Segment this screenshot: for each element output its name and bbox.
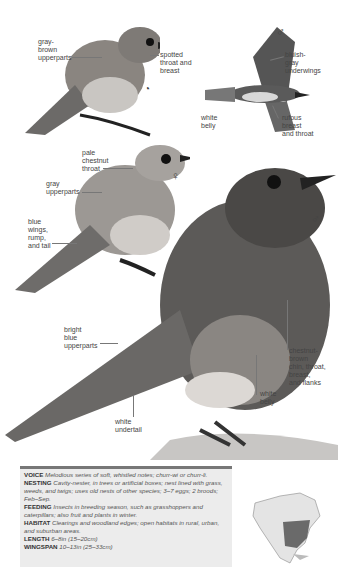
label-male-chin: chestnut- brown chin, throat, breast, an…: [289, 347, 326, 387]
leader-line: [150, 55, 159, 56]
juvenile-bird-image: [20, 15, 160, 140]
label-juvenile-throat: spotted throat and breast: [160, 51, 192, 75]
length-section: LENGTH 6–8in (15–20cm): [24, 535, 228, 543]
juvenile-symbol-icon: ◔: [144, 83, 150, 95]
label-male-belly: white belly: [260, 390, 276, 406]
habitat-section: HABITAT Clearings and woodland edges; op…: [24, 519, 228, 535]
label-male-undertail: white undertail: [115, 418, 142, 434]
leader-line: [133, 395, 134, 417]
leader-line: [100, 343, 118, 344]
species-info-panel: VOICE Melodious series of soft, whistled…: [20, 466, 232, 567]
label-male-upperparts: bright blue upperparts: [64, 326, 97, 350]
label-juvenile-upperparts: gray- brown upperparts: [38, 38, 71, 62]
range-map-icon: [245, 488, 330, 568]
nesting-section: NESTING Cavity-nester, in trees or artif…: [24, 479, 228, 503]
feeding-section: FEEDING Insects in breeding season, such…: [24, 503, 228, 519]
label-flight-belly: white belly: [201, 114, 217, 130]
voice-section: VOICE Melodious series of soft, whistled…: [24, 471, 228, 479]
label-flight-breast: rufous breast and throat: [282, 114, 314, 138]
male-symbol-icon: ♂: [311, 213, 320, 225]
leader-line: [72, 57, 102, 58]
label-flight-underwings: bluish- gray underwings: [285, 51, 321, 75]
male-symbol-icon-flight: ♂: [276, 26, 285, 38]
leader-line: [256, 355, 257, 395]
wingspan-section: WINGSPAN 10–13in (25–33cm): [24, 543, 228, 551]
leader-line: [287, 300, 288, 350]
